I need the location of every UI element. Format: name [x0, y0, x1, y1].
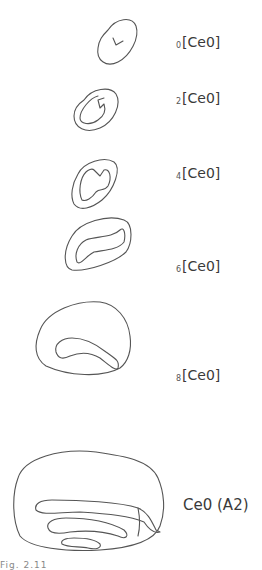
stage-name: [Ce0] — [182, 34, 220, 50]
stage-8-outline — [36, 302, 130, 375]
stage-label-6: 6[Ce0] — [176, 258, 220, 274]
stage-subscript: 2 — [176, 97, 181, 106]
stage-label-2: 2[Ce0] — [176, 90, 220, 106]
stage-0-outline — [98, 20, 137, 64]
figure-caption: Fig. 2.11 — [0, 560, 48, 570]
stage-name: [Ce0] — [182, 165, 220, 181]
stage-subscript: 0 — [176, 41, 181, 50]
stage-subscript: 6 — [176, 265, 181, 274]
stage-name: [Ce0] — [182, 90, 220, 106]
stage-6-outline — [65, 218, 131, 270]
final-stage-label: Ce0 (A2) — [183, 496, 249, 514]
stage-label-4: 4[Ce0] — [176, 165, 220, 181]
stage-label-8: 8[Ce0] — [176, 367, 220, 383]
stage-label-0: 0[Ce0] — [176, 34, 220, 50]
stage-final-outline — [14, 451, 164, 550]
stage-subscript: 4 — [176, 172, 181, 181]
stage-name: [Ce0] — [182, 258, 220, 274]
stage-subscript: 8 — [176, 374, 181, 383]
stage-name: [Ce0] — [182, 367, 220, 383]
stage-4-outline — [72, 160, 117, 209]
stage-2-outline — [74, 89, 118, 130]
